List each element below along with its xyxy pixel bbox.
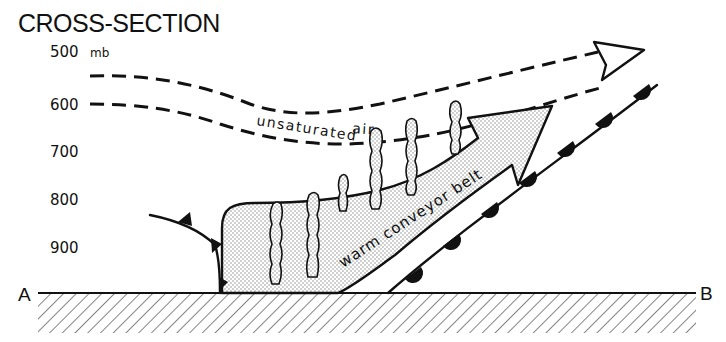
pressure-label-700: 700 bbox=[50, 143, 79, 161]
endpoint-a-label: A bbox=[18, 284, 31, 305]
unsaturated-label: unsaturated bbox=[256, 112, 359, 144]
warm-front-bump bbox=[595, 112, 613, 128]
cross-section-diagram: CROSS-SECTION 500 mb 600 700 800 900 A B… bbox=[0, 0, 726, 342]
cloud-tower bbox=[406, 119, 418, 196]
pressure-label-900: 900 bbox=[50, 239, 79, 257]
warm-front-bump bbox=[633, 84, 651, 100]
endpoint-b-label: B bbox=[700, 283, 713, 304]
warm-front-bump bbox=[443, 234, 461, 250]
cloud-tower bbox=[450, 101, 462, 154]
cloud-tower bbox=[370, 128, 383, 209]
pressure-label-600: 600 bbox=[50, 96, 79, 114]
warm-front-bump bbox=[557, 141, 575, 157]
cold-front bbox=[150, 212, 228, 293]
ground-surface bbox=[38, 293, 696, 333]
cloud-tower bbox=[270, 202, 282, 284]
warm-front-bump bbox=[481, 202, 499, 218]
cloud-tower bbox=[307, 193, 320, 278]
pressure-unit: mb bbox=[90, 46, 109, 60]
diagram-title: CROSS-SECTION bbox=[18, 9, 220, 37]
pressure-label-500: 500 bbox=[50, 43, 79, 61]
cloud-tower bbox=[339, 175, 349, 212]
pressure-label-800: 800 bbox=[50, 191, 79, 209]
